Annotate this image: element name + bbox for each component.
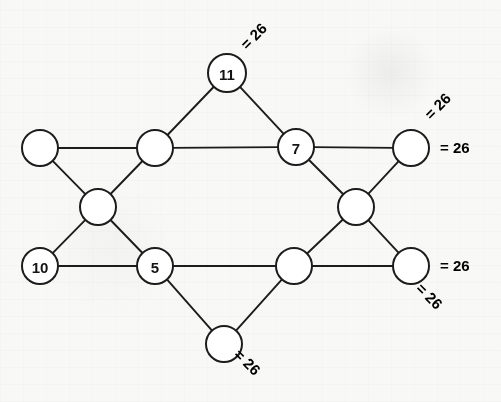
node-top-11-value: 11 <box>219 66 235 83</box>
edge-seven-to-top-right <box>313 147 394 148</box>
node-upper-mid-left-circle[interactable] <box>137 130 173 166</box>
edge-top-to-seven <box>239 86 284 134</box>
node-top-11[interactable]: 11 <box>208 54 246 92</box>
edge-left-to-center-left <box>52 160 86 195</box>
node-bottom-right-empty-circle[interactable] <box>393 248 429 284</box>
node-lower-left-10-value: 10 <box>32 259 49 276</box>
node-lower-mid-left-5-value: 5 <box>151 259 159 276</box>
edge-center-left-to-upper <box>110 160 143 195</box>
puzzle-figure: 117105 = 26= 26= 26= 26= 26= 26 <box>0 0 501 402</box>
nodes-group: 117105 <box>22 54 429 362</box>
node-top-right-empty-circle[interactable] <box>393 130 429 166</box>
node-left-empty[interactable] <box>22 130 58 166</box>
node-lower-mid-left-5[interactable]: 5 <box>137 248 173 284</box>
edge-upper-mid-to-seven <box>172 147 279 148</box>
node-upper-mid-left[interactable] <box>137 130 173 166</box>
node-lower-mid-right-circle[interactable] <box>276 248 312 284</box>
node-upper-right-7-value: 7 <box>292 140 300 157</box>
node-upper-right-7[interactable]: 7 <box>278 129 314 165</box>
edge-center-right-to-topr <box>368 160 400 194</box>
edge-center-left-to-five <box>110 219 143 254</box>
node-center-right-circle[interactable] <box>338 189 374 225</box>
edge-center-left-to-ten <box>52 219 86 254</box>
node-top-right-empty[interactable] <box>393 130 429 166</box>
graph-canvas: 117105 <box>0 0 501 402</box>
node-bottom-right-empty[interactable] <box>393 248 429 284</box>
sum-label-right-lower: = 26 <box>440 257 470 274</box>
sum-label-right-upper: = 26 <box>440 139 470 156</box>
node-center-left[interactable] <box>80 189 116 225</box>
edge-five-to-bottom <box>166 279 212 332</box>
node-center-right[interactable] <box>338 189 374 225</box>
node-center-left-circle[interactable] <box>80 189 116 225</box>
edge-lower-mid-to-center-r <box>306 219 343 255</box>
edge-bottom-to-lower-mid <box>235 279 282 332</box>
edge-center-right-to-seven <box>308 159 344 195</box>
node-lower-mid-right[interactable] <box>276 248 312 284</box>
edge-top-to-upper-mid-left <box>167 86 215 136</box>
edge-center-right-to-botr <box>368 219 400 253</box>
node-left-empty-circle[interactable] <box>22 130 58 166</box>
node-lower-left-10[interactable]: 10 <box>22 248 58 284</box>
